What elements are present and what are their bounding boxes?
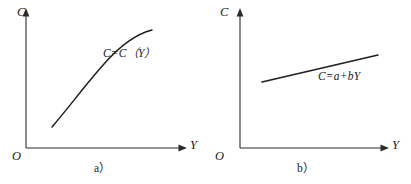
figure-container: C Y O C=C（Y） a） C Y O C=a+bY b） — [0, 0, 411, 184]
y-axis-arrow-icon — [237, 8, 244, 17]
origin-label: O — [215, 150, 224, 163]
panel-b: C Y O C=a+bY b） — [205, 0, 410, 184]
y-axis-label: C — [220, 6, 228, 19]
origin-label: O — [12, 150, 21, 163]
x-axis-label: Y — [190, 139, 197, 152]
panel-b-caption: b） — [297, 163, 314, 175]
x-axis-arrow-icon — [179, 145, 188, 152]
curve-function-label: C=C（Y） — [103, 48, 156, 60]
panel-a-caption: a） — [94, 163, 110, 175]
x-axis-arrow-icon — [381, 145, 390, 152]
panel-a-plot — [0, 0, 205, 184]
panel-b-plot — [205, 0, 410, 184]
y-axis-label: C — [17, 6, 25, 19]
panel-a: C Y O C=C（Y） a） — [0, 0, 205, 184]
line-function-label: C=a+bY — [318, 71, 360, 83]
x-axis-label: Y — [392, 139, 399, 152]
consumption-curve — [52, 30, 152, 127]
